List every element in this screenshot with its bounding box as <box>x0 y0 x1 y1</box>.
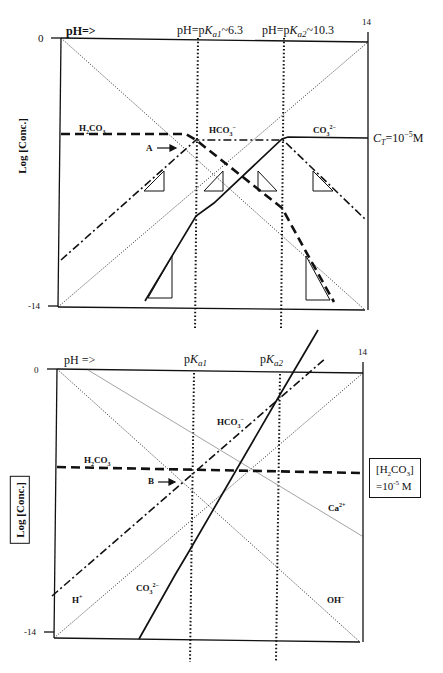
upper-y-tick-minus-14: -14 <box>28 302 40 311</box>
lower-pka1-label: pKa1 <box>184 353 207 368</box>
lower-point-b-label: B <box>148 477 154 486</box>
upper-ph-axis-label: pH=> <box>66 25 96 37</box>
upper-pka1-label: pH=pKa1~6.3 <box>177 24 243 39</box>
lower-y-axis-label: Log [Conc.] <box>10 476 30 544</box>
upper-chart <box>0 0 443 673</box>
upper-frame <box>48 32 368 310</box>
upper-x-tick-14: 14 <box>362 18 371 27</box>
lower-h2co3-concentration-box: [H2CO3] =10-5 M <box>369 458 421 498</box>
upper-hco3-label: HCO3− <box>209 124 236 137</box>
lower-co3-label: CO32− <box>136 582 159 595</box>
lower-pka2-label: pKa2 <box>260 353 283 368</box>
legend-line-2: =10-5 M <box>376 479 414 493</box>
upper-y-tick-0: 0 <box>38 33 44 44</box>
legend-line-1: [H2CO3] <box>376 463 414 479</box>
lower-hco3-label: HCO3− <box>217 416 244 429</box>
lower-h2co3-label: H2CO3 <box>84 456 111 467</box>
upper-co3-label: CO32− <box>313 124 336 137</box>
lower-y-tick-0: 0 <box>34 366 39 375</box>
upper-ct-label: CT=10−5M <box>373 131 423 147</box>
lower-ca-label: Ca2+ <box>328 502 345 513</box>
lower-x-tick-14: 14 <box>358 348 367 357</box>
lower-oh-label: OH− <box>327 594 344 605</box>
upper-pka2-label: pH=pKa2~10.3 <box>262 24 334 39</box>
lower-ph-axis-label: pH => <box>64 354 95 366</box>
upper-y-axis-label: Log [Conc.] <box>16 118 28 174</box>
lower-y-tick-minus-14: -14 <box>24 628 36 637</box>
lower-hplus-label: H+ <box>72 594 82 605</box>
upper-point-a-label: A <box>146 144 153 153</box>
upper-h2co3-label: H2CO3 <box>79 124 106 135</box>
